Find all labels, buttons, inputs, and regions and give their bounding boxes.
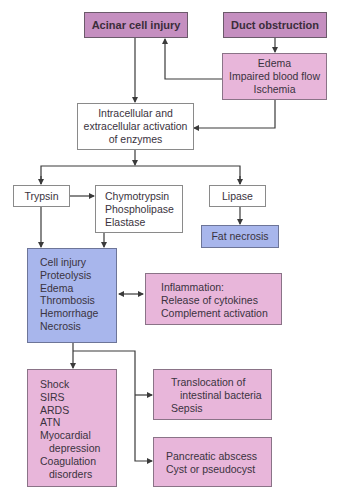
node-label: Lipase (222, 190, 253, 203)
node-line: of enzymes (109, 133, 163, 146)
node-line: disorders (40, 468, 116, 481)
node-line: Release of cytokines (161, 294, 281, 307)
node-line: Myocardial (40, 429, 116, 442)
node-lipase: Lipase (209, 185, 266, 207)
arrow-edema-to-activation (194, 100, 275, 128)
node-line: Phospholipase (105, 203, 182, 216)
node-line: Complement activation (161, 307, 281, 320)
node-abscess-pseudocyst: Pancreatic abscess Cyst or pseudocyst (153, 437, 272, 487)
node-line: Coagulation (40, 455, 116, 468)
node-line: Inflammation: (161, 281, 281, 294)
node-line: Edema (40, 282, 116, 295)
node-other-enzymes: Chymotrypsin Phospholipase Elastase (95, 185, 183, 233)
node-line: Proteolysis (40, 269, 116, 282)
node-line: Sepsis (171, 402, 271, 415)
node-enzyme-activation: Intracellular and extracellular activati… (77, 103, 194, 150)
node-line: Edema (258, 57, 291, 70)
node-edema-ischemia: Edema Impaired blood flow Ischemia (222, 53, 327, 100)
node-line: Pancreatic abscess (166, 450, 271, 463)
node-label: Trypsin (24, 190, 58, 203)
node-line: Impaired blood flow (229, 70, 320, 83)
node-line: Intracellular and (98, 107, 173, 120)
node-line: Cell injury (40, 256, 116, 269)
node-inflammation: Inflammation: Release of cytokines Compl… (145, 273, 282, 325)
node-line: ATN (40, 416, 116, 429)
node-label: Duct obstruction (231, 19, 319, 32)
node-line: Shock (40, 378, 116, 391)
node-line: Chymotrypsin (105, 190, 182, 203)
node-line: Hemorrhage (40, 307, 116, 320)
node-label: Acinar cell injury (92, 19, 181, 32)
node-line: Ischemia (253, 83, 295, 96)
node-local-injury: Cell injury Proteolysis Edema Thrombosis… (27, 248, 117, 343)
node-fat-necrosis: Fat necrosis (201, 225, 279, 248)
node-line: intestinal bacteria (171, 389, 271, 402)
node-line: ARDS (40, 404, 116, 417)
node-line: Cyst or pseudocyst (166, 463, 271, 476)
node-translocation-sepsis: Translocation of intestinal bacteria Sep… (153, 369, 272, 420)
node-line: Thrombosis (40, 294, 116, 307)
node-line: depression (40, 442, 116, 455)
node-duct-obstruction: Duct obstruction (223, 12, 327, 38)
node-line: Elastase (105, 216, 182, 229)
branch-to-enzymes (41, 166, 240, 184)
node-trypsin: Trypsin (13, 185, 70, 207)
arrow-edema-to-acinar (165, 39, 222, 79)
node-acinar-cell-injury: Acinar cell injury (84, 12, 188, 38)
node-line: Translocation of (171, 376, 271, 389)
node-systemic-complications: Shock SIRS ARDS ATN Myocardial depressio… (27, 369, 117, 487)
node-line: extracellular activation (84, 120, 188, 133)
node-line: Necrosis (40, 320, 116, 333)
node-line: SIRS (40, 391, 116, 404)
node-label: Fat necrosis (211, 230, 268, 243)
